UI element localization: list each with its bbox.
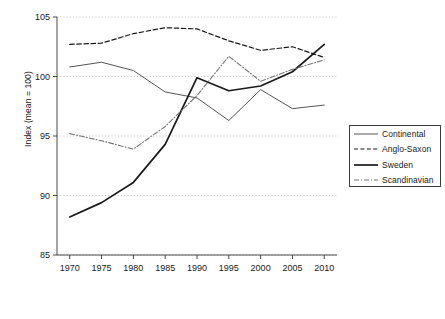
x-tick-label: 2010: [314, 263, 334, 273]
x-tick-label: 2000: [251, 263, 271, 273]
series-line-sweden: [70, 44, 325, 217]
y-tick-label: 95: [40, 131, 50, 141]
x-tick-label: 1995: [219, 263, 239, 273]
legend-swatch-continental: [353, 129, 379, 139]
series-line-continental: [70, 62, 325, 120]
legend-swatch-sweden: [353, 160, 379, 170]
x-tick-label: 1980: [123, 263, 143, 273]
y-tick-label: 90: [40, 191, 50, 201]
x-tick-label: 1990: [187, 263, 207, 273]
legend-label-scandinavian: Scandinavian: [382, 175, 434, 185]
legend-label-continental: Continental: [382, 129, 426, 139]
y-tick-label: 105: [35, 12, 50, 22]
x-tick-label: 1985: [155, 263, 175, 273]
legend-item-continental: Continental: [350, 126, 440, 142]
y-tick-label: 100: [35, 72, 50, 82]
legend-item-scandinavian: Scandinavian: [350, 173, 440, 189]
x-tick-label: 1975: [92, 263, 112, 273]
legend-item-anglo-saxon: Anglo-Saxon: [350, 142, 440, 158]
chart-legend: Continental Anglo-Saxon Sweden Scandinav…: [349, 125, 441, 187]
series-line-anglo-saxon: [70, 28, 325, 58]
series-line-scandinavian: [70, 56, 325, 149]
legend-swatch-scandinavian: [353, 175, 379, 185]
x-tick-label: 1970: [60, 263, 80, 273]
y-tick-label: 85: [40, 250, 50, 260]
legend-swatch-anglo-saxon: [353, 144, 379, 154]
chart-figure: Index (mean = 100) 859095100105197019751…: [0, 0, 445, 319]
legend-label-anglo-saxon: Anglo-Saxon: [382, 144, 431, 154]
x-tick-label: 2005: [282, 263, 302, 273]
legend-label-sweden: Sweden: [382, 160, 413, 170]
legend-item-sweden: Sweden: [350, 157, 440, 173]
